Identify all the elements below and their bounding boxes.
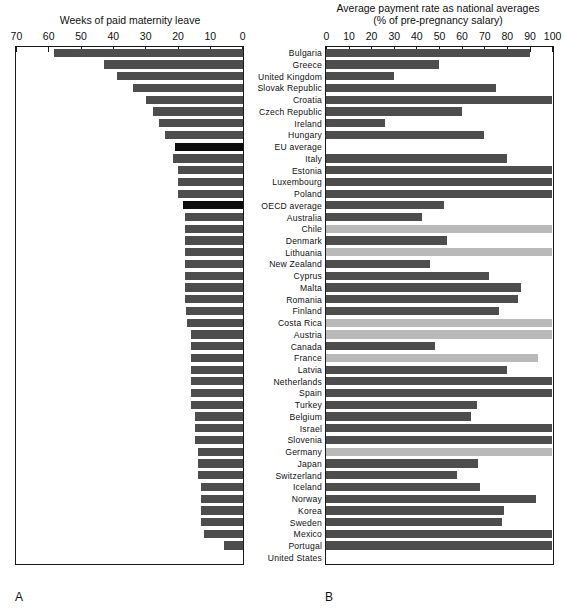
country-label-costa-rica: Costa Rica (278, 318, 322, 328)
axis-tick-label: 10 (204, 29, 216, 43)
bar-hungary (165, 131, 243, 139)
bar-row (326, 448, 553, 456)
bar-row (16, 366, 243, 374)
country-label-canada: Canada (291, 342, 322, 352)
bar-czech-republic (153, 107, 243, 115)
panel-b-title-line2: (% of pre-pregnancy salary) (315, 14, 561, 26)
bar-row (16, 307, 243, 315)
bar-romania (185, 295, 243, 303)
bar-row (16, 72, 243, 80)
bar-row (326, 495, 553, 503)
panel-b-axis-labels: 0102030405060708090100 (320, 29, 560, 43)
axis-tick-label: 20 (366, 29, 378, 43)
bar-row (16, 342, 243, 350)
bar-lithuania (326, 248, 552, 256)
bar-netherlands (191, 377, 243, 385)
bar-croatia (146, 96, 243, 104)
bar-row (326, 119, 553, 127)
bar-row (16, 84, 243, 92)
country-label-greece: Greece (293, 60, 322, 70)
bar-france (191, 354, 243, 362)
bar-row (16, 225, 243, 233)
bar-row (326, 330, 553, 338)
bar-iceland (326, 483, 480, 491)
country-label-finland: Finland (292, 306, 322, 316)
bar-romania (326, 295, 518, 303)
axis-tick-label: 90 (524, 29, 536, 43)
bar-denmark (185, 236, 243, 244)
bar-row (326, 166, 553, 174)
country-label-malta: Malta (300, 283, 322, 293)
bar-slovenia (326, 436, 552, 444)
axis-tick-label: 100 (544, 29, 562, 43)
axis-tick-label: 20 (172, 29, 184, 43)
bar-row (326, 342, 553, 350)
bar-row (16, 448, 243, 456)
bar-switzerland (198, 471, 243, 479)
figure-container: Weeks of paid maternity leave Average pa… (0, 0, 565, 614)
country-label-bulgaria: Bulgaria (289, 48, 322, 58)
bar-row (326, 272, 553, 280)
country-label-turkey: Turkey (295, 400, 322, 410)
bar-row (326, 436, 553, 444)
country-label-united-states: United States (268, 553, 322, 563)
bar-row (16, 190, 243, 198)
axis-tick-label: 40 (411, 29, 423, 43)
bar-ireland (326, 119, 385, 127)
bar-row (16, 495, 243, 503)
bar-latvia (191, 366, 243, 374)
bar-row (326, 518, 553, 526)
country-label-slovak-republic: Slovak Republic (257, 83, 322, 93)
bar-iceland (201, 483, 243, 491)
country-label-switzerland: Switzerland (275, 471, 322, 481)
bar-mexico (204, 530, 243, 538)
bar-costa-rica (187, 319, 243, 327)
bar-row (16, 119, 243, 127)
bar-czech-republic (326, 107, 462, 115)
axis-tick-label: 0 (323, 29, 329, 43)
bar-spain (191, 389, 243, 397)
bar-eu-average (175, 143, 243, 151)
country-label-czech-republic: Czech Republic (259, 107, 322, 117)
bar-slovenia (195, 436, 243, 444)
bar-row (326, 283, 553, 291)
bar-united-kingdom (326, 72, 394, 80)
bar-chile (326, 225, 552, 233)
bar-malta (326, 283, 521, 291)
panel-a-bars (16, 47, 243, 564)
bar-lithuania (185, 248, 243, 256)
bar-cyprus (185, 272, 243, 280)
country-label-lithuania: Lithuania (285, 248, 322, 258)
bar-row (16, 518, 243, 526)
country-label-eu-average: EU average (275, 142, 322, 152)
bar-row (16, 483, 243, 491)
bar-croatia (326, 96, 552, 104)
bar-row (16, 213, 243, 221)
country-label-italy: Italy (305, 154, 322, 164)
panel-b-bars (326, 47, 553, 564)
bar-row (16, 154, 243, 162)
panel-b-title-line1: Average payment rate as national average… (337, 2, 540, 14)
bar-row (326, 131, 553, 139)
bar-luxembourg (178, 178, 243, 186)
bar-row (16, 377, 243, 385)
country-label-netherlands: Netherlands (273, 377, 322, 387)
country-label-luxembourg: Luxembourg (272, 177, 322, 187)
axis-tick-label: 60 (43, 29, 55, 43)
axis-tick-label: 0 (240, 29, 246, 43)
bar-switzerland (326, 471, 457, 479)
bar-row (326, 178, 553, 186)
bar-row (326, 412, 553, 420)
bar-row (326, 49, 553, 57)
axis-tick-label: 30 (388, 29, 400, 43)
bar-row (16, 131, 243, 139)
country-label-united-kingdom: United Kingdom (258, 72, 322, 82)
bar-row (16, 248, 243, 256)
bar-italy (173, 154, 243, 162)
bar-row (16, 401, 243, 409)
bar-united-kingdom (117, 72, 243, 80)
bar-row (326, 96, 553, 104)
bar-new-zealand (326, 260, 430, 268)
axis-tick-label: 30 (140, 29, 152, 43)
bar-poland (178, 190, 243, 198)
